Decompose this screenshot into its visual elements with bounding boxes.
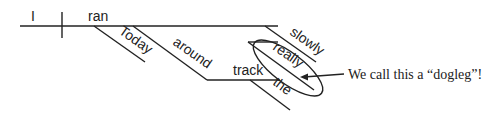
word-verb: ran: [88, 8, 108, 24]
callout-arrow: [304, 74, 344, 77]
word-the: the: [270, 74, 295, 99]
sentence-diagram: I ran Today around track the slowly real…: [0, 0, 488, 116]
word-subject: I: [31, 8, 35, 24]
arrowhead-icon: [300, 74, 308, 81]
word-track: track: [233, 62, 264, 78]
word-around: around: [170, 33, 215, 71]
annotation-text: We call this a “dogleg”!: [348, 67, 482, 82]
